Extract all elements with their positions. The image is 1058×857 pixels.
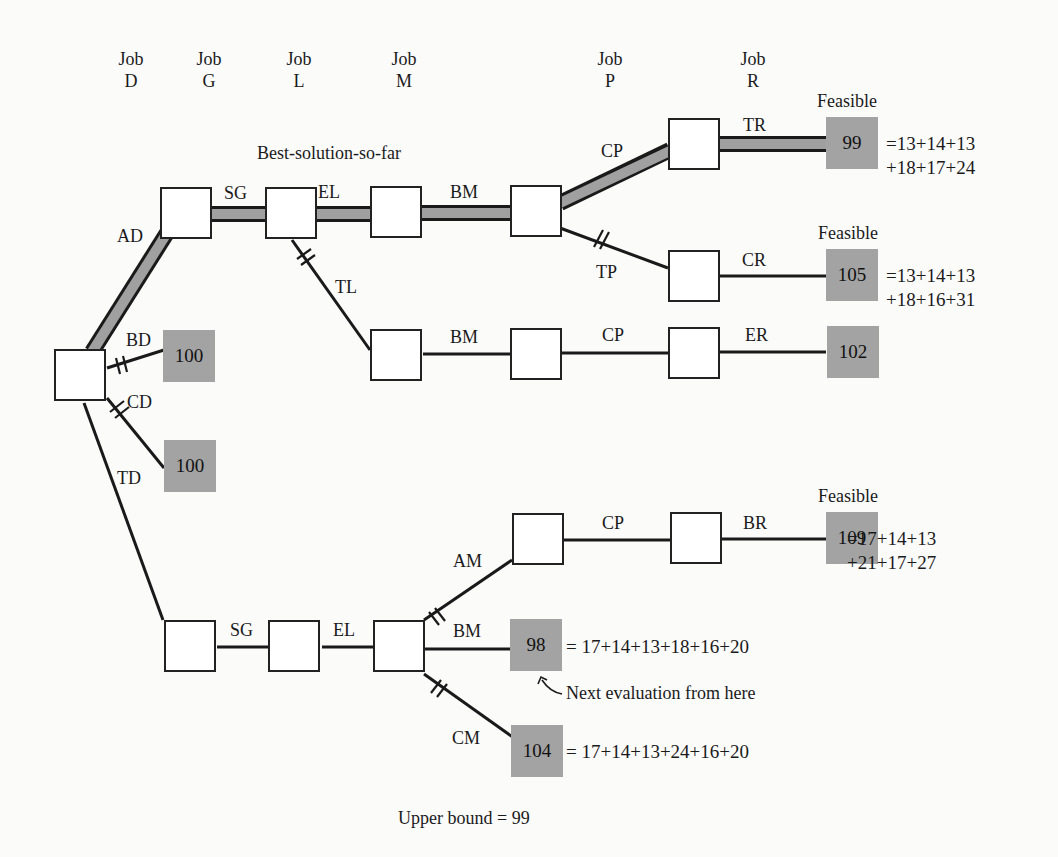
edge-label-bm-top: BM [450,182,478,202]
edge-label-cp-bot: CP [602,513,624,533]
edge-label-bm-bot: BM [453,621,481,641]
edge-label-bd: BD [126,330,151,350]
best-solution-label: Best-solution-so-far [257,143,401,163]
equation-line: =13+14+13 [886,132,975,156]
edge-label-am: AM [453,551,482,571]
feasible-label-tr: Feasible [817,91,877,111]
leaf-cr: 105 [826,249,878,301]
equation-line: +21+17+27 [847,551,936,575]
leaf-bd: 100 [163,330,215,382]
edge-label-bm-mid: BM [450,327,478,347]
equation-line: +18+16+31 [886,288,975,312]
node-cp-bot [670,512,722,564]
next-eval-label: Next evaluation from here [566,683,755,703]
next-eval-arrow [538,677,562,694]
node-bm-top [510,185,562,237]
node-cp-top [668,118,720,170]
leaf-tr: 99 [826,117,878,169]
equation-line: +18+17+24 [886,156,975,180]
edge-label-cr: CR [742,250,766,270]
leaf-bm: 98 [510,619,562,671]
node-td [164,620,216,672]
feasible-label-cr: Feasible [818,223,878,243]
job-header-label: Job [269,48,329,70]
job-header-id: M [374,70,434,92]
feasible-label-br: Feasible [818,486,878,506]
edge-label-br: BR [743,513,767,533]
job-header-label: Job [374,48,434,70]
node-tl [370,329,422,381]
job-header-id: D [101,70,161,92]
equation-line: =17+14+13 [847,527,936,551]
job-header-id: L [269,70,329,92]
node-sg-bot [268,620,320,672]
edge-label-tp: TP [596,262,617,282]
edge-label-cd: CD [127,392,152,412]
job-header-id: G [179,70,239,92]
node-root [54,349,106,401]
leaf-er: 102 [827,326,879,378]
node-el-bot [373,620,425,672]
equation-cr: =13+14+13 +18+16+31 [886,264,975,312]
edge-label-sg-top: SG [224,183,247,203]
edge-label-ad: AD [117,226,143,246]
edge-label-td: TD [117,468,141,488]
job-header-m: Job M [374,48,434,92]
best-path [92,144,826,352]
node-tp [668,250,720,302]
edge-label-el-bot: EL [333,620,355,640]
job-header-label: Job [101,48,161,70]
job-header-label: Job [179,48,239,70]
edge-label-el-top: EL [318,182,340,202]
job-header-id: R [723,70,783,92]
upper-bound-label: Upper bound = 99 [398,808,530,828]
node-am [512,513,564,565]
node-ad [160,187,212,239]
job-header-label: Job [723,48,783,70]
node-cp-mid [668,327,720,379]
job-header-id: P [580,70,640,92]
equation-tr: =13+14+13 +18+17+24 [886,132,975,180]
equation-bm: = 17+14+13+18+16+20 [566,635,749,659]
edge-label-cp-mid: CP [602,325,624,345]
leaf-cm: 104 [511,725,563,777]
job-header-p: Job P [580,48,640,92]
job-header-d: Job D [101,48,161,92]
edge-label-cp-top: CP [601,141,623,161]
node-sg-top [265,187,317,239]
edge-label-cm: CM [452,728,480,748]
job-header-g: Job G [179,48,239,92]
edge-label-sg-bot: SG [230,620,253,640]
edge-label-tr: TR [743,115,766,135]
equation-line: =13+14+13 [886,264,975,288]
equation-cm: = 17+14+13+24+16+20 [566,740,749,764]
edge-label-er: ER [745,325,768,345]
node-el-top [370,186,422,238]
job-header-r: Job R [723,48,783,92]
edge-label-tl: TL [335,277,357,297]
job-header-l: Job L [269,48,329,92]
node-bm-mid [510,328,562,380]
equation-br: =17+14+13 +21+17+27 [847,527,936,575]
leaf-cd: 100 [164,440,216,492]
job-header-label: Job [580,48,640,70]
